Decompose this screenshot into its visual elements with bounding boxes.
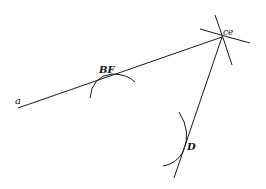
label-bf: BF [98,64,115,75]
arc-d [163,112,187,166]
label-ce: ce [223,27,233,37]
arc-bf [90,74,135,98]
line-ce-d [174,37,222,178]
label-a: a [15,95,21,106]
arc-ce-vertical [215,15,232,65]
geometric-construction: a BF ce D [0,0,266,189]
line-a-ce [18,37,222,108]
label-d: D [186,141,196,152]
